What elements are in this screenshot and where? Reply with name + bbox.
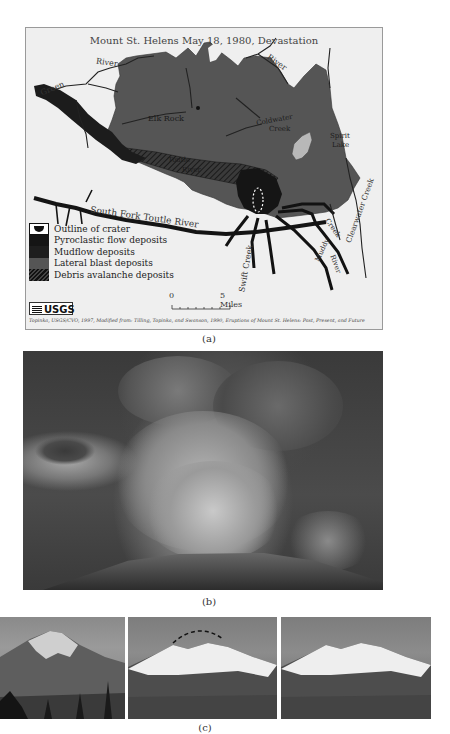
- legend-item-mudflow: Mudflow deposits: [29, 246, 174, 258]
- mudflow-swatch-icon: [29, 246, 49, 258]
- label-toutle-river: River: [182, 166, 201, 174]
- crater-outline-icon: [29, 223, 49, 235]
- label-spirit-lake: Lake: [332, 141, 349, 149]
- legend-item-crater: Outline of crater: [29, 223, 174, 235]
- legend-label: Lateral blast deposits: [54, 258, 153, 268]
- label-coldwater-creek: Creek: [269, 125, 290, 133]
- former-summit-dashed-outline: [173, 631, 223, 643]
- usgs-logo: USGS: [29, 302, 73, 315]
- map-scale: 0 5 Miles: [165, 291, 235, 311]
- legend-label: Debris avalanche deposits: [54, 270, 174, 280]
- map-title: Mount St. Helens May 18, 1980, Devastati…: [26, 35, 382, 46]
- blast-zone-area: [108, 42, 360, 218]
- legend-label: Outline of crater: [54, 224, 130, 234]
- eruption-photo: [23, 351, 383, 590]
- debris-avalanche-swatch-icon: [29, 269, 49, 281]
- scale-start: 0: [169, 291, 174, 300]
- map-citation: Topinka, USGS/CVO, 1997, Modified from: …: [29, 318, 365, 323]
- photo-after-eruption-outlined: [128, 617, 277, 719]
- legend-item-lateral-blast: Lateral blast deposits: [29, 258, 174, 270]
- label-elk-rock: Elk Rock: [148, 114, 184, 123]
- legend-label: Pyroclastic flow deposits: [54, 235, 167, 245]
- photo-after-eruption: [281, 617, 431, 719]
- legend-item-debris-avalanche: Debris avalanche deposits: [29, 269, 174, 281]
- legend-label: Mudflow deposits: [54, 247, 135, 257]
- label-toutle: Toutle: [168, 156, 190, 164]
- caption-b: (b): [194, 596, 224, 607]
- map-legend: Outline of crater Pyroclastic flow depos…: [29, 223, 174, 281]
- devastation-map: Mount St. Helens May 18, 1980, Devastati…: [25, 27, 383, 330]
- lateral-blast-swatch-icon: [29, 258, 49, 270]
- caption-c: (c): [190, 722, 220, 733]
- label-spirit: Spirit: [330, 132, 350, 140]
- map-graphic: [26, 28, 382, 329]
- elk-rock-marker: [196, 106, 200, 110]
- caption-a: (a): [194, 333, 224, 344]
- scale-end: 5 Miles: [220, 291, 242, 309]
- pyroclastic-swatch-icon: [29, 235, 49, 247]
- legend-item-pyroclastic: Pyroclastic flow deposits: [29, 235, 174, 247]
- photo-before-eruption: [0, 617, 125, 719]
